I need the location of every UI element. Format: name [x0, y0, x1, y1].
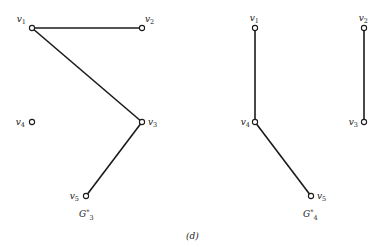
- edge-v4-v5: [255, 122, 311, 196]
- node-v3: [361, 119, 366, 124]
- node-v4: [252, 119, 257, 124]
- node-label-v5: v5: [70, 191, 79, 203]
- node-label-v2: v2: [145, 14, 154, 26]
- graph-g4: v1v2v3v4v5: [241, 13, 368, 203]
- node-v3: [139, 119, 144, 124]
- node-v5: [83, 193, 88, 198]
- node-label-v3: v3: [349, 117, 358, 129]
- figure-caption: (d): [186, 231, 199, 241]
- graph-figure: v1v2v3v4v5 v1v2v3v4v5 G*3 G*4 (d): [0, 0, 387, 247]
- node-label-v4: v4: [16, 117, 25, 129]
- node-v2: [361, 25, 366, 30]
- node-v4: [29, 119, 34, 124]
- edge-v1-v3: [32, 28, 142, 122]
- edge-v3-v5: [86, 122, 142, 196]
- node-v5: [308, 193, 313, 198]
- graph-g3: v1v2v3v4v5: [16, 14, 157, 203]
- node-label-v2: v2: [359, 13, 368, 25]
- node-label-v3: v3: [148, 117, 157, 129]
- graph-g4-title: G*4: [303, 208, 318, 222]
- node-v1: [29, 25, 34, 30]
- graph-g3-title: G*3: [79, 208, 94, 222]
- node-label-v4: v4: [241, 117, 250, 129]
- node-label-v1: v1: [17, 14, 26, 26]
- node-v2: [139, 25, 144, 30]
- node-label-v5: v5: [317, 191, 326, 203]
- node-v1: [252, 25, 257, 30]
- node-label-v1: v1: [250, 13, 259, 25]
